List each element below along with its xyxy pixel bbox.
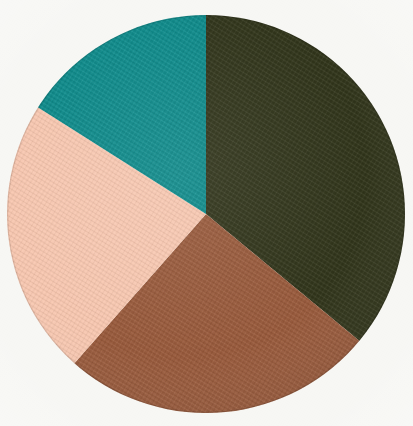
pie-chart-canvas[interactable]: Dark olive green — 36%Brown — 25.5%Pink … xyxy=(0,0,413,426)
pie-slices-group: Dark olive green — 36%Brown — 25.5%Pink … xyxy=(4,12,408,416)
disc-shading-overlay xyxy=(7,15,405,413)
pie-chart-figure: Dark olive green — 36%Brown — 25.5%Pink … xyxy=(0,0,413,426)
